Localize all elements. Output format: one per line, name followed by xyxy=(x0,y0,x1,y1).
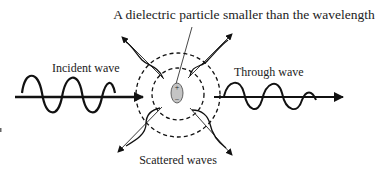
plus-charge-label: + xyxy=(175,83,180,92)
rayleigh-scattering-diagram: A dielectric particle smaller than the w… xyxy=(0,0,385,177)
incident-sine xyxy=(22,76,115,113)
scattered-waves-label: Scattered waves xyxy=(139,153,217,167)
incident-wave-label: Incident wave xyxy=(52,61,120,75)
edge-mark xyxy=(0,128,2,132)
minus-charge-label: − xyxy=(175,95,180,104)
through-wave-label: Through wave xyxy=(234,65,304,79)
incident-wave: Incident wave xyxy=(15,61,143,112)
dielectric-particle: + − xyxy=(171,83,183,104)
through-wave: Through wave xyxy=(214,65,343,109)
scatter-arrow-upper-right xyxy=(188,34,232,78)
particle-title-label: A dielectric particle smaller than the w… xyxy=(113,7,375,22)
